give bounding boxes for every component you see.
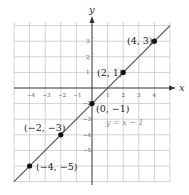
x-axis-label: x — [179, 82, 185, 93]
svg-text:1: 1 — [86, 69, 90, 75]
x-axis-arrow-icon — [169, 86, 176, 91]
svg-text:−1: −1 — [74, 92, 82, 98]
label-m2-m3: (−2, −3) — [24, 122, 65, 133]
svg-text:−2: −2 — [58, 92, 66, 98]
svg-text:−4: −4 — [27, 92, 36, 98]
svg-text:−4: −4 — [83, 132, 92, 138]
point-4-3 — [152, 39, 157, 44]
svg-text:3: 3 — [137, 92, 141, 98]
point-m4-m5 — [27, 163, 32, 168]
svg-text:3: 3 — [86, 38, 90, 44]
label-m4-m5: (−4, −5) — [36, 161, 77, 172]
y-tick-labels: 3 2 1 −2 −3 −4 −5 — [83, 38, 92, 153]
label-0-m1: (0, −1) — [96, 103, 130, 114]
svg-text:4: 4 — [153, 92, 157, 98]
svg-text:2: 2 — [86, 54, 90, 60]
label-2-1: (2, 1) — [97, 67, 123, 78]
svg-text:2: 2 — [122, 92, 126, 98]
svg-text:−3: −3 — [43, 92, 52, 98]
y-axis-label: y — [88, 4, 95, 15]
label-4-3: (4, 3) — [127, 35, 153, 46]
coordinate-plane: x y −4 −3 −2 −1 1 2 3 4 3 2 1 −2 −3 −4 −… — [0, 0, 189, 195]
svg-text:1: 1 — [106, 92, 110, 98]
point-0-m1 — [89, 101, 94, 106]
svg-text:−5: −5 — [83, 147, 92, 153]
svg-text:−3: −3 — [83, 116, 92, 122]
equation-label: y = x − 1 — [105, 118, 144, 127]
y-axis-arrow-icon — [90, 16, 95, 23]
